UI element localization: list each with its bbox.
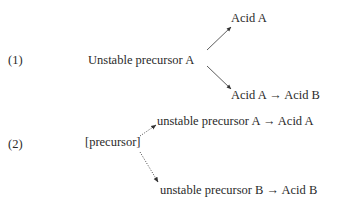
- scheme-1-lower-arrow-icon: [207, 66, 231, 89]
- scheme-2-upper-dotted-arrow-icon: [140, 125, 156, 136]
- connector-arrows: [0, 0, 339, 205]
- scheme-1-upper-arrow-icon: [207, 27, 231, 50]
- scheme-2-lower-dotted-arrow-icon: [140, 152, 158, 182]
